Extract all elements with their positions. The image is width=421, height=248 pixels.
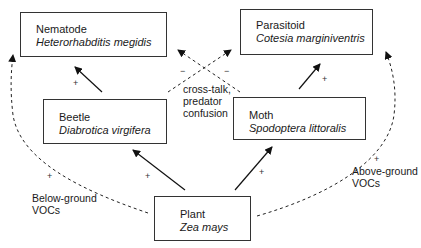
label-below-ground-line1: Below-ground bbox=[32, 192, 97, 204]
arrow-beetle-to-nematode bbox=[75, 67, 102, 92]
sign-plant-beetle: + bbox=[145, 171, 150, 181]
node-moth-common: Moth bbox=[249, 109, 365, 122]
sign-moth-parasitoid: + bbox=[322, 74, 327, 84]
node-moth-scientific: Spodoptera littoralis bbox=[249, 122, 365, 135]
node-parasitoid-scientific: Cotesia marginiventris bbox=[256, 32, 372, 45]
node-parasitoid-common: Parasitoid bbox=[256, 19, 372, 32]
sign-crosstalk-right: − bbox=[224, 66, 229, 76]
label-above-ground-line1: Above-ground bbox=[352, 165, 418, 177]
sign-plant-moth: + bbox=[259, 167, 264, 177]
sign-beetle-nematode: + bbox=[73, 78, 78, 88]
arrow-plant-to-moth bbox=[235, 147, 272, 190]
sign-crosstalk-left: − bbox=[180, 66, 185, 76]
node-moth: Moth Spodoptera littoralis bbox=[233, 97, 366, 140]
node-plant-common: Plant bbox=[180, 208, 250, 221]
node-nematode-scientific: Heterorhabditis megidis bbox=[36, 36, 166, 49]
label-above-ground-line2: VOCs bbox=[352, 177, 418, 189]
node-parasitoid: Parasitoid Cotesia marginiventris bbox=[240, 9, 373, 55]
sign-above-ground: + bbox=[374, 154, 379, 164]
node-plant: Plant Zea mays bbox=[154, 196, 251, 241]
node-beetle-common: Beetle bbox=[59, 111, 166, 124]
label-crosstalk-line1: cross-talk, bbox=[183, 83, 231, 95]
label-crosstalk-line3: confusion bbox=[183, 107, 231, 119]
sign-below-ground: + bbox=[47, 171, 52, 181]
label-below-ground-vocs: Below-ground VOCs bbox=[32, 192, 97, 216]
label-crosstalk-line2: predator bbox=[183, 95, 231, 107]
label-above-ground-vocs: Above-ground VOCs bbox=[352, 165, 418, 189]
label-crosstalk: cross-talk, predator confusion bbox=[183, 83, 231, 119]
node-beetle: Beetle Diabrotica virgifera bbox=[43, 99, 167, 144]
arrow-moth-to-parasitoid bbox=[299, 64, 320, 89]
label-below-ground-line2: VOCs bbox=[32, 204, 97, 216]
arrow-plant-to-beetle bbox=[133, 150, 185, 190]
node-nematode: Nematode Heterorhabditis megidis bbox=[20, 12, 167, 57]
node-nematode-common: Nematode bbox=[36, 23, 166, 36]
node-plant-scientific: Zea mays bbox=[180, 221, 250, 234]
node-beetle-scientific: Diabrotica virgifera bbox=[59, 124, 166, 137]
